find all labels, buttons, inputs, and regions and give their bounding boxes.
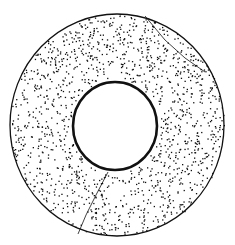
stippled-ring-bead-drawing: [0, 0, 235, 245]
figure-stage: Stippled line drawing of a ring-shaped b…: [0, 0, 235, 245]
central-hole: [73, 82, 157, 170]
